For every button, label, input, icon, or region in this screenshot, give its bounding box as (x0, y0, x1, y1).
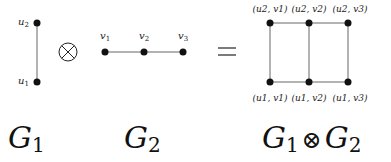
node-u1 (34, 79, 41, 86)
label-v2: v2 (139, 30, 149, 43)
title-g2: G2 (124, 120, 161, 157)
graph-product-diagram: u2 u1 v1 v2 v3 (u2, v1) (u2, v2) (0, 0, 391, 162)
node-u2-v1 (267, 20, 274, 27)
label-u2-v2: (u2, v2) (291, 4, 327, 14)
label-u1-v2: (u1, v2) (291, 93, 327, 103)
node-u2-v3 (345, 20, 352, 27)
equals-icon (218, 48, 236, 55)
otimes-icon (59, 43, 77, 61)
node-u1-v3 (345, 79, 352, 86)
node-v3 (180, 49, 187, 56)
graph-g1: u2 u1 (18, 16, 41, 88)
label-v1: v1 (100, 30, 110, 43)
node-u2 (34, 20, 41, 27)
graph-g2: v1 v2 v3 (100, 30, 188, 56)
label-u1: u1 (18, 75, 29, 88)
label-u1-v1: (u1, v1) (252, 93, 288, 103)
title-g1: G1 (8, 120, 45, 157)
node-u1-v2 (306, 79, 313, 86)
node-u1-v1 (267, 79, 274, 86)
label-u2-v1: (u2, v1) (252, 4, 288, 14)
label-u2: u2 (18, 16, 29, 29)
title-product: G1⊗G2 (262, 120, 362, 157)
label-u1-v3: (u1, v3) (332, 93, 368, 103)
graph-product: (u2, v1) (u2, v2) (u2, v3) (u1, v1) (u1,… (252, 4, 368, 103)
node-v2 (141, 49, 148, 56)
node-u2-v2 (306, 20, 313, 27)
node-v1 (102, 49, 109, 56)
label-v3: v3 (178, 30, 188, 43)
label-u2-v3: (u2, v3) (332, 4, 368, 14)
